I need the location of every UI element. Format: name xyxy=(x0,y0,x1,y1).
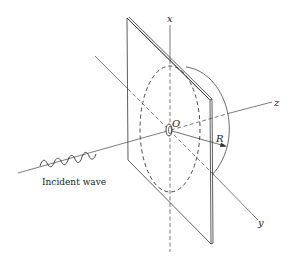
origin-label: O xyxy=(172,118,180,129)
aperture-diagram: x z y O R Incident wave xyxy=(0,0,290,265)
radius-label: R xyxy=(215,133,224,144)
incident-wave-label: Incident wave xyxy=(42,177,106,187)
y-axis-label: y xyxy=(257,217,264,228)
x-axis-label: x xyxy=(167,13,173,24)
z-axis-label: z xyxy=(273,97,280,108)
diagram-canvas: x z y O R Incident wave xyxy=(0,0,290,265)
